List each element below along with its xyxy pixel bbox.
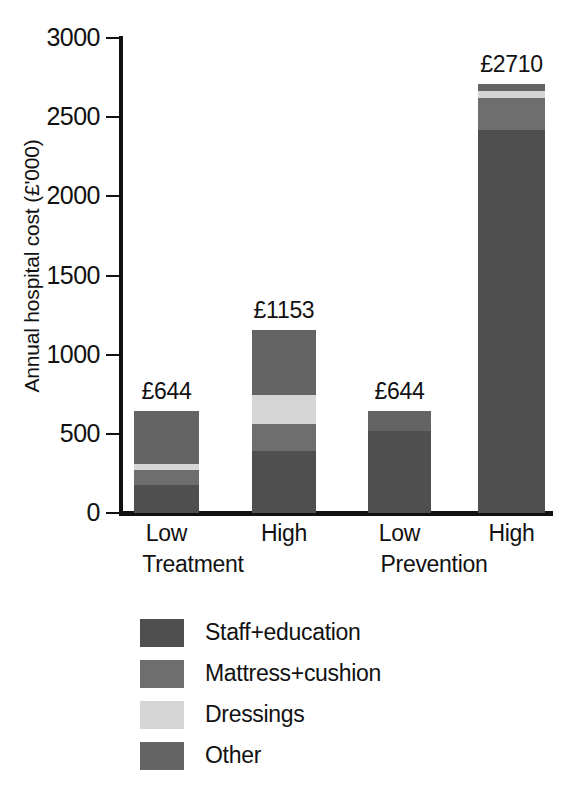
bar-segment [478, 84, 545, 91]
y-axis-tick [106, 37, 120, 39]
legend-item[interactable]: Other [140, 735, 520, 776]
legend-swatch-icon [140, 619, 184, 647]
y-axis-tick [106, 275, 120, 277]
legend-item[interactable]: Staff+education [140, 612, 520, 653]
bar-value-label: £1153 [227, 299, 341, 322]
y-axis-tick [106, 195, 120, 197]
bar-segment [478, 98, 545, 130]
legend-swatch-icon [140, 660, 184, 688]
bar-segment [478, 91, 545, 98]
legend-swatch-icon [140, 742, 184, 770]
bar-0 [134, 411, 199, 513]
y-axis-tick [106, 116, 120, 118]
bar-value-label: £2710 [453, 53, 570, 76]
x-axis-label-2: Low [343, 521, 456, 545]
y-axis-tick-label: 500 [8, 421, 100, 446]
stacked-bar-chart: Annual hospital cost (£'000) 30002500200… [0, 0, 573, 801]
legend-label: Dressings [205, 703, 305, 726]
bar-segment [478, 130, 545, 513]
y-axis-tick [106, 433, 120, 435]
x-axis-group-label: Prevention [344, 552, 524, 576]
y-axis-tick-label: 1000 [8, 342, 100, 367]
bar-segment [368, 411, 431, 431]
bar-segment [252, 451, 316, 513]
bar-segment [368, 431, 431, 513]
y-axis-tick [106, 512, 120, 514]
bar-value-label: £644 [109, 380, 224, 403]
y-axis-tick-label: 2000 [8, 183, 100, 208]
bar-segment [252, 395, 316, 424]
x-axis-group-label: Treatment [103, 552, 283, 576]
legend-item[interactable]: Dressings [140, 694, 520, 735]
legend-label: Mattress+cushion [205, 662, 381, 685]
chart-legend: Staff+educationMattress+cushionDressings… [140, 612, 520, 776]
bar-2 [368, 411, 431, 513]
bar-segment [252, 330, 316, 395]
x-axis-label-1: High [227, 521, 341, 545]
bar-1 [252, 330, 316, 513]
legend-item[interactable]: Mattress+cushion [140, 653, 520, 694]
y-axis-tick-label: 2500 [8, 104, 100, 129]
y-axis-tick-label: 0 [8, 500, 100, 525]
legend-label: Other [205, 744, 261, 767]
bar-3 [478, 84, 545, 513]
y-axis-tick-label: 3000 [8, 25, 100, 50]
legend-swatch-icon [140, 701, 184, 729]
legend-label: Staff+education [205, 621, 361, 644]
x-axis-label-0: Low [109, 521, 224, 545]
bar-segment [134, 411, 199, 464]
y-axis-tick-label: 1500 [8, 263, 100, 288]
bar-value-label: £644 [343, 380, 456, 403]
bar-segment [134, 485, 199, 513]
y-axis-tick [106, 354, 120, 356]
x-axis-label-3: High [453, 521, 570, 545]
bar-segment [134, 470, 199, 485]
bar-segment [252, 424, 316, 451]
